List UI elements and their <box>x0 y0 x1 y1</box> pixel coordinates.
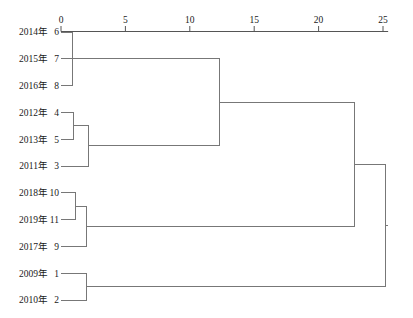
leaf-year-label: 2018年 <box>19 187 48 198</box>
leaf-number-label: 4 <box>54 108 59 118</box>
leaf-number-label: 8 <box>54 81 59 91</box>
leaf-year-label: 2012年 <box>19 107 48 118</box>
leaf-year-label: 2010年 <box>19 294 48 305</box>
leaf-year-label: 2014年 <box>19 26 48 37</box>
axis-tick-label: 20 <box>314 15 324 25</box>
axis-tick-label: 0 <box>59 15 64 25</box>
dendrogram-link <box>87 164 386 286</box>
leaf-year-label: 2013年 <box>19 134 48 145</box>
leaf-number-label: 1 <box>54 269 59 279</box>
leaf-year-label: 2015年 <box>19 53 48 64</box>
leaf-year-label: 2011年 <box>19 160 48 171</box>
dendrogram-figure: 0510152025 2014年62015年72016年82012年42013年… <box>0 0 413 318</box>
dendrogram-link <box>87 102 355 226</box>
leaf-number-label: 9 <box>54 242 59 252</box>
leaf-year-label: 2009年 <box>19 268 48 279</box>
leaf-number-label: 7 <box>54 54 59 64</box>
leaf-number-label: 6 <box>54 27 59 37</box>
leaf-labels: 2014年62015年72016年82012年42013年52011年32018… <box>19 26 59 305</box>
axis-tick-label: 15 <box>249 15 259 25</box>
leaf-year-label: 2017年 <box>19 241 48 252</box>
dendrogram-link <box>61 273 87 300</box>
dendrogram-link <box>61 126 88 166</box>
dendrogram-link <box>88 59 219 146</box>
dendrogram-link <box>61 193 75 220</box>
dendrogram-link <box>61 112 74 139</box>
leaf-number-label: 11 <box>50 215 59 225</box>
axis-tick-label: 5 <box>123 15 128 25</box>
dendrogram-canvas: 0510152025 2014年62015年72016年82012年42013年… <box>0 0 413 318</box>
leaf-number-label: 10 <box>50 188 60 198</box>
dendrogram-link <box>61 206 87 246</box>
x-axis: 0510152025 <box>59 15 389 32</box>
leaf-number-label: 3 <box>54 161 59 171</box>
axis-tick-label: 25 <box>378 15 388 25</box>
leaf-year-label: 2019年 <box>19 214 48 225</box>
dendrogram-links <box>61 32 388 300</box>
axis-tick-label: 10 <box>185 15 195 25</box>
leaf-year-label: 2016年 <box>19 80 48 91</box>
leaf-number-label: 2 <box>54 295 59 305</box>
leaf-number-label: 5 <box>54 135 59 145</box>
